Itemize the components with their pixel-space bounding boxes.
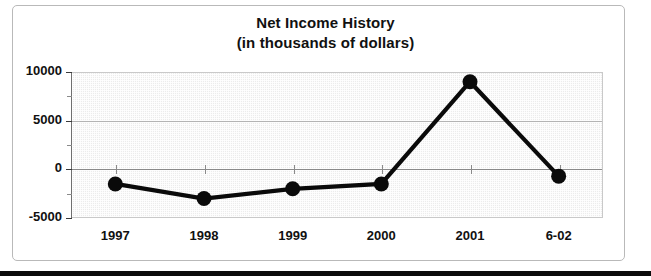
net-income-history-chart-figure: Net Income History (in thousands of doll… bbox=[0, 0, 651, 280]
net-income-line bbox=[115, 82, 558, 199]
page-bottom-rule bbox=[0, 271, 651, 276]
data-point-6-02 bbox=[551, 169, 566, 184]
data-series-layer bbox=[0, 0, 651, 280]
data-point-1998 bbox=[197, 191, 212, 206]
data-point-1997 bbox=[108, 176, 123, 191]
data-point-1999 bbox=[285, 181, 300, 196]
data-point-2001 bbox=[463, 74, 478, 89]
data-point-2000 bbox=[374, 176, 389, 191]
